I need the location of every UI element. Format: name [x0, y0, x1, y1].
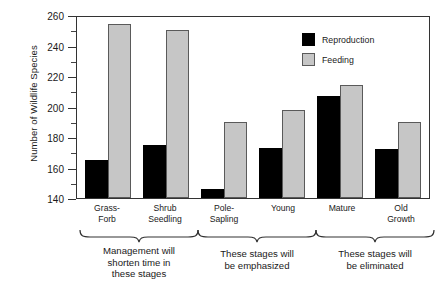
bar-group-shrub-seedling [143, 17, 189, 198]
brace-group-2 [196, 229, 318, 243]
y-major-tick-180 [68, 138, 76, 139]
bar-old-growth-feeding [398, 122, 421, 198]
x-label-line1: Grass- [76, 203, 138, 214]
y-major-tick-160 [68, 169, 76, 170]
y-tick-label-200: 200 [26, 103, 64, 114]
annotation-line3: these stages [74, 268, 204, 280]
legend-item-feeding: Feeding [302, 53, 374, 66]
brace-group-3 [314, 229, 436, 243]
plot-area [76, 16, 430, 199]
x-label-line1: Mature [311, 203, 373, 214]
y-tick-label-160: 160 [26, 164, 64, 175]
x-label-line1: Old [370, 203, 432, 214]
brace-group-1 [78, 229, 200, 243]
x-label-young: Young [252, 203, 314, 214]
bar-group-old-growth [375, 17, 421, 198]
bar-old-growth-reproduction [375, 149, 398, 198]
y-tick-label-180: 180 [26, 133, 64, 144]
black-square-icon [302, 33, 315, 46]
legend-item-reproduction: Reproduction [302, 33, 374, 46]
annotation-emphasized: These stages will be emphasized [192, 248, 322, 271]
bar-grass-forb-feeding [108, 24, 131, 198]
x-label-line2: Sapling [193, 214, 255, 225]
x-label-line1: Pole- [193, 203, 255, 214]
bar-pole-sapling-reproduction [201, 189, 224, 198]
bar-grass-forb-reproduction [85, 160, 108, 198]
annotation-shorten: Management will shorten time in these st… [74, 245, 204, 280]
x-label-mature: Mature [311, 203, 373, 214]
annotation-line1: These stages will [192, 248, 322, 260]
y-major-tick-240 [68, 47, 76, 48]
y-major-tick-140 [68, 199, 76, 200]
y-tick-label-140: 140 [26, 194, 64, 205]
bar-young-feeding [282, 110, 305, 198]
bar-group-grass-forb [85, 17, 131, 198]
x-label-line2: Seedling [134, 214, 196, 225]
annotation-line2: shorten time in [74, 257, 204, 269]
annotation-eliminated: These stages will be eliminated [310, 248, 440, 271]
bar-group-pole-sapling [201, 17, 247, 198]
legend-label-feeding: Feeding [322, 55, 354, 65]
x-label-shrub-seedling: Shrub Seedling [134, 203, 196, 224]
annotation-line2: be emphasized [192, 260, 322, 272]
annotation-line2: be eliminated [310, 260, 440, 272]
x-label-line1: Young [252, 203, 314, 214]
bar-pole-sapling-feeding [224, 122, 247, 198]
bar-shrub-seedling-feeding [166, 30, 189, 198]
bar-shrub-seedling-reproduction [143, 145, 166, 198]
bar-mature-reproduction [317, 96, 340, 198]
y-tick-label-260: 260 [26, 11, 64, 22]
bar-group-young [259, 17, 305, 198]
x-label-grass-forb: Grass- Forb [76, 203, 138, 224]
x-label-line1: Shrub [134, 203, 196, 214]
y-tick-label-220: 220 [26, 72, 64, 83]
wildlife-species-bar-chart: Number of Wildlife Species 260 240 220 2… [0, 0, 448, 285]
y-major-tick-200 [68, 108, 76, 109]
bars-container [77, 17, 429, 198]
gray-square-icon [302, 53, 315, 66]
y-major-tick-260 [68, 16, 76, 17]
annotation-line1: These stages will [310, 248, 440, 260]
bar-young-reproduction [259, 148, 282, 198]
legend: Reproduction Feeding [302, 33, 374, 73]
x-label-line2: Forb [76, 214, 138, 225]
y-tick-label-240: 240 [26, 42, 64, 53]
x-label-line2: Growth [370, 214, 432, 225]
x-label-pole-sapling: Pole- Sapling [193, 203, 255, 224]
annotation-line1: Management will [74, 245, 204, 257]
y-major-tick-220 [68, 77, 76, 78]
legend-label-reproduction: Reproduction [322, 35, 374, 45]
x-label-old-growth: Old Growth [370, 203, 432, 224]
bar-mature-feeding [340, 85, 363, 198]
